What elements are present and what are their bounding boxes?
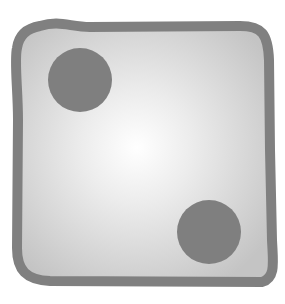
die-illustration (0, 0, 285, 304)
pip-bottom-right (177, 200, 241, 264)
pip-top-left (48, 48, 112, 112)
die-graphic (0, 0, 285, 304)
